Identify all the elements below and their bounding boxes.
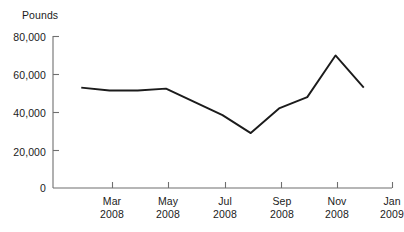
x-axis (53, 182, 393, 188)
plot-area (0, 0, 404, 232)
y-axis (53, 36, 59, 188)
data-series-line (81, 55, 364, 133)
line-chart: Pounds 80,000 60,000 40,000 20,000 0 Mar… (0, 0, 404, 232)
